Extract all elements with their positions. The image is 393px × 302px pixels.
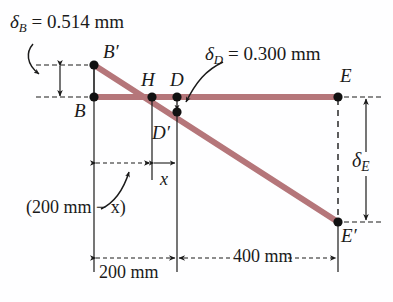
delta-b-annotation: δB = 0.514 mm (10, 12, 124, 35)
dimension-label-x: x (160, 170, 168, 188)
witness-lines (94, 99, 338, 272)
point-label-h: H (141, 70, 155, 89)
delta-e-symbol: δ (352, 149, 361, 171)
delta-b-subscript: B (19, 20, 27, 35)
point-label-b: B (74, 101, 86, 120)
deformed-beam-line (94, 65, 338, 222)
dimension-label-200mm: 200 mm (99, 263, 159, 281)
point-dot-b (89, 92, 98, 101)
delta-b-dimension (28, 44, 88, 97)
beam-members (94, 65, 338, 222)
point-label-d: D (170, 70, 184, 89)
point-label-e-prime: E′ (341, 226, 357, 245)
delta-b-leader-arrow (28, 44, 39, 74)
figure-canvas (0, 0, 393, 302)
dimension-label-200-minus-x: (200 mm − x) (26, 198, 126, 216)
delta-b-value: 0.514 mm (47, 11, 124, 32)
delta-d-value: 0.300 mm (243, 43, 320, 64)
point-dot-d (172, 92, 181, 101)
delta-e-subscript: E (361, 159, 369, 174)
point-label-d-prime: D′ (152, 123, 170, 142)
delta-d-subscript: D (214, 52, 223, 67)
dimension-label-400mm: 400 mm (233, 247, 293, 265)
delta-d-symbol: δ (205, 43, 214, 64)
delta-b-symbol: δ (10, 11, 19, 32)
beam-deflection-figure: δB = 0.514 mm δD = 0.300 mm δE B′ B H D … (0, 0, 393, 302)
delta-e-annotation: δE (352, 150, 370, 173)
point-dot-h (147, 92, 156, 101)
point-dot-e (333, 92, 342, 101)
delta-d-annotation: δD = 0.300 mm (205, 44, 320, 67)
point-label-b-prime: B′ (103, 42, 119, 61)
point-dot-b-prime (89, 60, 98, 69)
point-dot-d-prime (172, 107, 181, 116)
delta-d-equals: = (228, 43, 239, 64)
delta-b-equals: = (31, 11, 42, 32)
point-label-e: E (340, 66, 352, 85)
